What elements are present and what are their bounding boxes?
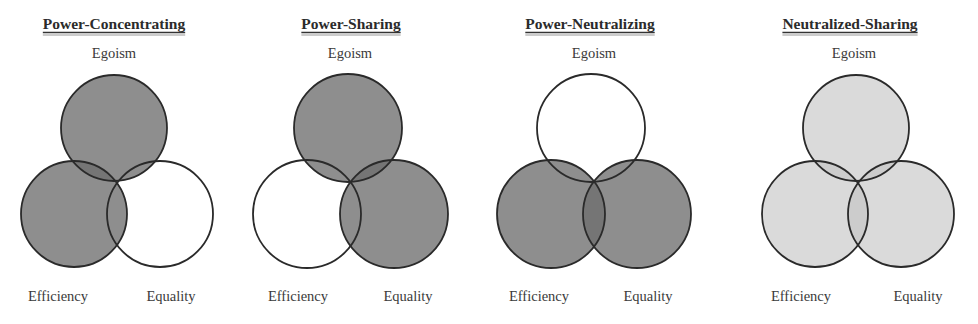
panel-title: Neutralized-Sharing <box>782 15 917 32</box>
venn-panel-power-concentrating: Power-ConcentratingEgoismEfficiencyEqual… <box>21 15 213 304</box>
label-egoism: Egoism <box>92 45 137 61</box>
label-efficiency: Efficiency <box>268 288 329 304</box>
panel-title: Power-Sharing <box>301 15 401 32</box>
venn-panel-power-sharing: Power-SharingEgoismEfficiencyEquality <box>253 15 448 304</box>
label-equality: Equality <box>893 288 943 304</box>
venn-diagram-figure: Power-ConcentratingEgoismEfficiencyEqual… <box>0 0 978 324</box>
label-efficiency: Efficiency <box>771 288 832 304</box>
label-equality: Equality <box>383 288 433 304</box>
venn-panel-power-neutralizing: Power-NeutralizingEgoismEfficiencyEquali… <box>497 15 691 304</box>
label-efficiency: Efficiency <box>28 288 89 304</box>
venn-panel-neutralized-sharing: Neutralized-SharingEgoismEfficiencyEqual… <box>762 15 954 304</box>
circle-egoism <box>537 74 645 182</box>
label-equality: Equality <box>623 288 673 304</box>
panel-title: Power-Neutralizing <box>525 15 655 32</box>
label-egoism: Egoism <box>328 45 373 61</box>
label-egoism: Egoism <box>832 45 877 61</box>
label-equality: Equality <box>146 288 196 304</box>
label-efficiency: Efficiency <box>509 288 570 304</box>
panel-title: Power-Concentrating <box>43 15 186 32</box>
label-egoism: Egoism <box>572 45 617 61</box>
